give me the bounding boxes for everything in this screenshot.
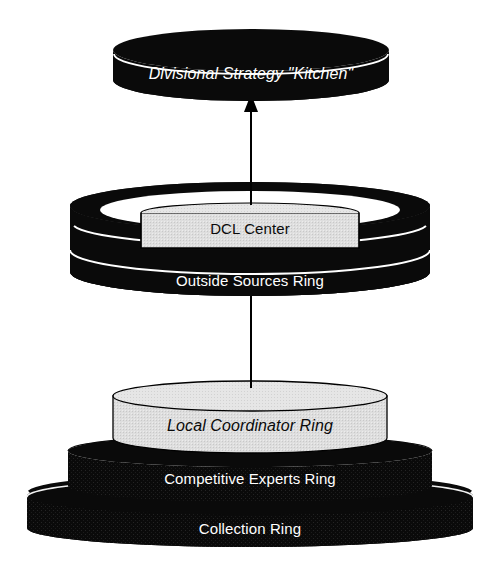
diagram-canvas: Divisional Strategy "Kitchen" DCL Center… xyxy=(0,0,497,583)
ring-diagram-graphics xyxy=(0,0,497,583)
dcl-center-shape xyxy=(141,203,359,248)
local-coordinator-ring-shape xyxy=(113,381,387,453)
divisional-strategy-kitchen-shape xyxy=(113,29,389,101)
